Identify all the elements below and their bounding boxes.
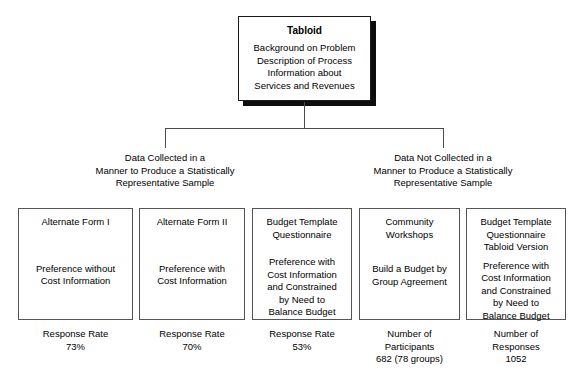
leaf-title-line: Tabloid Version xyxy=(480,241,551,254)
leaf-body-line: Build a Budget by xyxy=(372,263,447,276)
leaf-node-body: Build a Budget by Group Agreement xyxy=(372,263,447,288)
root-body-line: Services and Revenues xyxy=(254,80,356,93)
leaf-body-line: by Need to xyxy=(267,294,337,307)
leaf-body-line: Preference without xyxy=(36,263,115,276)
leaf-title-line: Workshops xyxy=(385,229,433,242)
caption-line: Number of xyxy=(355,328,464,341)
caption-line: Number of xyxy=(464,328,568,341)
leaf-body-line: Group Agreement xyxy=(372,276,447,289)
leaf-node-budget-template-questionnaire-tabloid: Budget Template Questionnaire Tabloid Ve… xyxy=(466,208,566,320)
leaf-body-line: Cost Information xyxy=(36,275,115,288)
leaf-body-line: Balance Budget xyxy=(267,306,337,319)
leaf-node-title: Budget Template Questionnaire xyxy=(266,216,337,241)
leaf-title-line: Alternate Form I xyxy=(41,216,109,229)
leaf-title-line: Questionnaire xyxy=(266,229,337,242)
leaf-node-title: Budget Template Questionnaire Tabloid Ve… xyxy=(480,216,551,254)
leaf-node-body: Preference with Cost Information and Con… xyxy=(267,256,337,319)
leaf-body-line: and Constrained xyxy=(481,285,551,298)
leaf-node-budget-template-questionnaire: Budget Template Questionnaire Preference… xyxy=(252,208,352,320)
group-label-data-not-collected: Data Not Collected in a Manner to Produc… xyxy=(318,152,568,190)
leaf-node-title: Community Workshops xyxy=(385,216,433,241)
leaf-title-line: Community xyxy=(385,216,433,229)
leaf-title-line: Budget Template xyxy=(480,216,551,229)
caption-budget-template-questionnaire: Response Rate 53% xyxy=(250,328,354,353)
root-body-line: Information about xyxy=(254,67,356,80)
caption-line: 53% xyxy=(250,341,354,354)
caption-line: Response Rate xyxy=(250,328,354,341)
leaf-title-line: Budget Template xyxy=(266,216,337,229)
caption-budget-template-questionnaire-tabloid: Number of Responses 1052 xyxy=(464,328,568,366)
leaf-body-line: by Need to xyxy=(481,297,551,310)
caption-line: 682 (78 groups) xyxy=(355,353,464,366)
leaf-body-line: Cost Information xyxy=(481,272,551,285)
caption-line: Responses xyxy=(464,341,568,354)
group-label-line: Representative Sample xyxy=(318,177,568,190)
leaf-body-line: Cost Information xyxy=(157,275,227,288)
root-node-title: Tabloid xyxy=(287,24,322,37)
leaf-node-title: Alternate Form I xyxy=(41,216,109,229)
root-node-body: Background on Problem Description of Pro… xyxy=(254,42,356,92)
group-label-line: Representative Sample xyxy=(40,177,290,190)
leaf-node-community-workshops: Community Workshops Build a Budget by Gr… xyxy=(359,208,460,320)
leaf-title-line: Alternate Form II xyxy=(157,216,228,229)
leaf-node-alternate-form-i: Alternate Form I Preference without Cost… xyxy=(18,208,133,320)
leaf-node-alternate-form-ii: Alternate Form II Preference with Cost I… xyxy=(139,208,245,320)
caption-line: Response Rate xyxy=(18,328,133,341)
caption-line: Participants xyxy=(355,341,464,354)
leaf-node-title: Alternate Form II xyxy=(157,216,228,229)
leaf-body-line: and Constrained xyxy=(267,281,337,294)
group-label-data-collected: Data Collected in a Manner to Produce a … xyxy=(40,152,290,190)
leaf-body-line: Balance Budget xyxy=(481,310,551,323)
leaf-node-body: Preference with Cost Information xyxy=(157,263,227,288)
group-label-line: Manner to Produce a Statistically xyxy=(318,165,568,178)
leaf-node-body: Preference without Cost Information xyxy=(36,263,115,288)
root-body-line: Background on Problem xyxy=(254,42,356,55)
caption-community-workshops: Number of Participants 682 (78 groups) xyxy=(355,328,464,366)
connector-branch-left xyxy=(165,128,166,148)
caption-line: 73% xyxy=(18,341,133,354)
leaf-body-line: Cost Information xyxy=(267,269,337,282)
caption-alternate-form-i: Response Rate 73% xyxy=(18,328,133,353)
leaf-title-line: Questionnaire xyxy=(480,229,551,242)
group-label-line: Manner to Produce a Statistically xyxy=(40,165,290,178)
caption-line: Response Rate xyxy=(139,328,245,341)
leaf-body-line: Preference with xyxy=(481,260,551,273)
caption-line: 1052 xyxy=(464,353,568,366)
caption-line: 70% xyxy=(139,341,245,354)
leaf-body-line: Preference with xyxy=(267,256,337,269)
leaf-body-line: Preference with xyxy=(157,263,227,276)
group-label-line: Data Collected in a xyxy=(40,152,290,165)
root-body-line: Description of Process xyxy=(254,55,356,68)
connector-branch-bar xyxy=(165,128,444,129)
caption-alternate-form-ii: Response Rate 70% xyxy=(139,328,245,353)
connector-root-stem xyxy=(304,102,305,129)
leaf-node-body: Preference with Cost Information and Con… xyxy=(481,260,551,323)
root-node-tabloid: Tabloid Background on Problem Descriptio… xyxy=(238,16,371,101)
group-label-line: Data Not Collected in a xyxy=(318,152,568,165)
connector-branch-right xyxy=(443,128,444,148)
